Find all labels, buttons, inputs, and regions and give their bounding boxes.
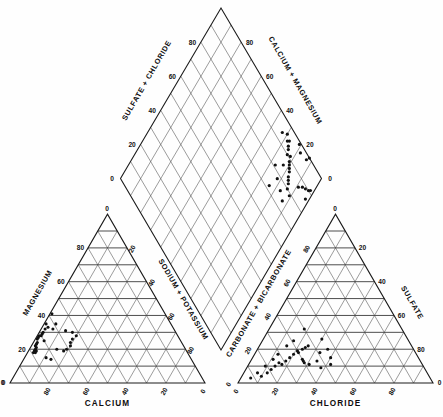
anion-data-point [308, 363, 311, 366]
anion-data-point [276, 353, 279, 356]
anion-data-point [307, 344, 310, 347]
grid-line-right-parallel [326, 231, 414, 383]
cation-left-tick: 60 [57, 278, 65, 285]
cation-data-point [71, 331, 74, 334]
anion-data-point [301, 348, 304, 351]
diamond-data-point [286, 187, 289, 190]
anion-bottom-tick: 40 [309, 386, 319, 396]
anion-data-point [277, 361, 280, 364]
cation-left-tick: 40 [38, 312, 46, 319]
anion-left-tick: 60 [282, 278, 292, 288]
grid-line-left-parallel [30, 231, 118, 383]
diamond-data-point [281, 199, 284, 202]
anion-data-point [329, 363, 332, 366]
cation-data-point [51, 327, 54, 330]
cation-right-tick: 40 [146, 277, 156, 287]
anion-data-point [303, 361, 306, 364]
diamond-right-tick: 0 [328, 175, 332, 182]
cation-data-point [64, 329, 67, 332]
diamond-data-point [308, 156, 311, 159]
anion-data-point [292, 339, 295, 342]
grid-line-right-parallel [306, 265, 374, 383]
anion-left-axis-title: CARBONATE + BICARBONATE [224, 248, 293, 359]
diamond-right-tick: 80 [246, 39, 254, 46]
anion-data-point [292, 353, 295, 356]
diamond-data-point [288, 160, 291, 163]
anion-left-tick: 0 [224, 380, 232, 387]
grid-line-right-parallel [20, 366, 30, 383]
diamond-data-point [304, 187, 307, 190]
diamond-data-point [305, 158, 308, 161]
diamond-right-tick: 20 [306, 141, 314, 148]
anion-data-point [304, 346, 307, 349]
cation-bottom-tick: 20 [159, 386, 169, 396]
diamond-data-point [298, 143, 301, 146]
anion-data-point [297, 351, 300, 354]
cation-left-tick: 20 [18, 346, 26, 353]
diamond-data-point [279, 189, 282, 192]
diamond-data-point [289, 155, 292, 158]
anion-right-tick: 20 [359, 244, 367, 251]
diamond-data-point [268, 184, 271, 187]
cation-left-tick: 80 [77, 244, 85, 251]
cation-data-point [69, 341, 72, 344]
diamond-data-point [286, 153, 289, 156]
anion-triangle-group [238, 214, 433, 383]
diamond-data-point [287, 148, 290, 151]
anion-data-point [315, 360, 318, 363]
cation-bottom-tick: 0 [199, 388, 207, 395]
grid-line-right-parallel [78, 265, 146, 383]
diamond-left-tick: 0 [110, 175, 114, 182]
cation-data-point [45, 356, 48, 359]
anion-right-tick: 40 [378, 278, 386, 285]
grid-line-left-parallel [186, 366, 196, 383]
diamond-data-point [282, 163, 285, 166]
diamond-data-point [286, 133, 289, 136]
diamond-data-point [301, 186, 304, 189]
diamond-data-point [286, 139, 289, 142]
grid-line-left-parallel [375, 332, 404, 383]
diamond-data-point [299, 151, 302, 154]
cation-data-point [46, 326, 49, 329]
anion-left-tick: 80 [301, 244, 311, 254]
diamond-left-axis-title: SULFATE + CHLORIDE [120, 39, 173, 122]
cation-data-point [55, 348, 58, 351]
cation-bottom-axis-title: CALCIUM [85, 399, 130, 408]
anion-data-point [288, 356, 291, 359]
cation-data-point [36, 338, 39, 341]
diamond-left-tick: 20 [128, 141, 136, 148]
diamond-data-point [281, 131, 284, 134]
anion-data-point [319, 366, 322, 369]
anion-data-point [329, 356, 332, 359]
diamond-data-point [309, 189, 312, 192]
diamond-left-tick: 60 [169, 73, 177, 80]
diamond-data-point [288, 194, 291, 197]
cation-bottom-tick: 40 [120, 386, 130, 396]
diamond-data-point [287, 175, 290, 178]
cation-data-point [54, 322, 57, 325]
diamond-data-point [304, 198, 307, 201]
anion-bottom-tick: 0 [232, 388, 240, 395]
diamond-data-point [297, 186, 300, 189]
grid-line-left-parallel [414, 366, 424, 383]
grid-line-right-parallel [248, 366, 258, 383]
diamond-right-axis-title: CALCIUM + MAGNESIUM [267, 35, 325, 126]
diamond-right-tick: 40 [286, 107, 294, 114]
anion-br-zero: 0 [438, 379, 442, 386]
anion-bottom-tick: 20 [270, 386, 280, 396]
anion-data-point [266, 371, 269, 374]
diamond-left-tick: 40 [149, 107, 157, 114]
anion-data-point [272, 358, 275, 361]
anion-data-point [264, 365, 267, 368]
diamond-data-point [276, 177, 279, 180]
diamond-data-point [288, 167, 291, 170]
anion-bottom-tick: 60 [348, 386, 358, 396]
anion-bottom-tick: 80 [387, 386, 397, 396]
cation-apex-tick: 0 [105, 205, 109, 212]
anion-apex-tick: 0 [333, 205, 337, 212]
piper-diagram-canvas: 0204060800204060800204060800MAGNESIUMSOD… [0, 0, 443, 417]
grid-line-right-parallel [267, 332, 296, 383]
cation-bottom-tick: 80 [42, 386, 52, 396]
cation-right-tick: 60 [166, 311, 176, 321]
anion-right-tick: 80 [417, 346, 425, 353]
